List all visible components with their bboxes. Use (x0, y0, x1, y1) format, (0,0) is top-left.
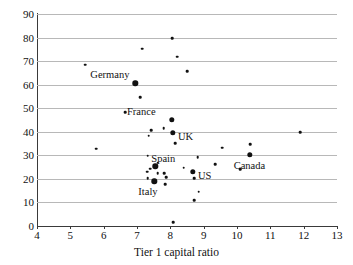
x-tick-label: 13 (332, 230, 343, 241)
x-tick-label: 6 (101, 230, 107, 241)
x-tick-label: 12 (298, 230, 309, 241)
data-point-us (190, 169, 195, 174)
data-point-label-spain: Spain (151, 154, 175, 165)
data-point-label-uk: UK (178, 132, 193, 143)
gridline (37, 202, 337, 203)
data-point-label-italy: Italy (138, 187, 157, 198)
data-point (176, 56, 179, 59)
y-tick-label: 70 (23, 56, 34, 67)
data-point (214, 163, 217, 166)
x-axis-tick-labels: 45678910111213 (37, 230, 337, 244)
gridline (37, 38, 337, 39)
data-point (197, 190, 200, 193)
y-tick-label: 60 (23, 79, 34, 90)
data-point (249, 143, 252, 146)
data-point (182, 166, 185, 169)
data-point (139, 96, 142, 99)
data-point (172, 221, 175, 224)
data-point (193, 199, 196, 202)
x-tick-label: 8 (168, 230, 174, 241)
data-point (146, 177, 149, 180)
x-tick-label: 9 (201, 230, 207, 241)
data-point (141, 47, 144, 50)
data-point (196, 156, 199, 159)
data-point (149, 167, 152, 170)
data-point (162, 127, 165, 130)
gridline (37, 155, 337, 156)
data-point (164, 183, 167, 186)
data-point (146, 155, 149, 158)
data-point-uk (170, 130, 175, 135)
data-point (299, 131, 302, 134)
gridline (37, 179, 337, 180)
data-point (147, 134, 150, 137)
x-axis-line (37, 226, 338, 227)
data-point-label-us: US (198, 171, 211, 182)
data-point (156, 172, 159, 175)
data-point (150, 129, 153, 132)
gridline (37, 14, 337, 15)
scatter-chart-figure: 0102030405060708090 GermanyFranceUKSpain… (0, 0, 353, 265)
data-point (84, 64, 87, 67)
data-point (95, 147, 98, 150)
data-point (171, 37, 174, 40)
data-point-label-france: France (127, 107, 156, 118)
plot-area: GermanyFranceUKSpainItalyUSCanada (37, 14, 337, 226)
y-axis-tick-labels: 0102030405060708090 (0, 0, 34, 265)
gridline (37, 108, 337, 109)
data-point-canada (247, 152, 252, 157)
y-tick-label: 40 (23, 126, 34, 137)
gridline (37, 61, 337, 62)
data-point (193, 177, 196, 180)
data-point (186, 70, 189, 73)
y-tick-label: 80 (23, 32, 34, 43)
data-point-label-germany: Germany (90, 70, 129, 81)
y-tick-label: 0 (29, 221, 35, 232)
x-tick-label: 10 (232, 230, 243, 241)
data-point-france (169, 117, 174, 122)
data-point-italy (152, 179, 157, 184)
x-tick-label: 7 (134, 230, 140, 241)
gridline (37, 85, 337, 86)
data-point (163, 172, 166, 175)
y-tick-label: 20 (23, 173, 34, 184)
y-tick-label: 50 (23, 103, 34, 114)
y-tick-label: 30 (23, 150, 34, 161)
x-tick-label: 5 (68, 230, 74, 241)
data-point (165, 176, 168, 179)
data-point-label-canada: Canada (234, 161, 266, 172)
x-axis-title: Tier 1 capital ratio (0, 246, 353, 258)
data-point (146, 171, 149, 174)
data-point (174, 142, 177, 145)
data-point (221, 146, 224, 149)
y-tick-label: 90 (23, 9, 34, 20)
x-tick-label: 4 (34, 230, 40, 241)
x-tick-label: 11 (265, 230, 276, 241)
y-tick-label: 10 (23, 197, 34, 208)
